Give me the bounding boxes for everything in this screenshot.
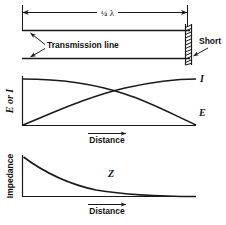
current-curve-label: I bbox=[199, 73, 205, 84]
short-leader-arrow bbox=[194, 48, 209, 56]
middle-y-axis-label: E or I bbox=[4, 88, 15, 115]
bottom-x-axis-label: Distance bbox=[89, 206, 125, 216]
transmission-line-leader-upper bbox=[31, 33, 46, 45]
voltage-curve-label: E bbox=[198, 107, 206, 118]
bottom-panel-chart: Z Impedance Distance bbox=[5, 154, 196, 216]
bottom-y-axis-label: Impedance bbox=[5, 154, 15, 199]
middle-x-axis-label: Distance bbox=[89, 135, 125, 145]
current-curve bbox=[23, 79, 196, 125]
impedance-curve-label: Z bbox=[107, 168, 114, 179]
transmission-line-label: Transmission line bbox=[47, 40, 119, 50]
figure-container: ¼ λ bbox=[0, 0, 226, 225]
top-panel-schematic: ¼ λ bbox=[22, 5, 221, 65]
middle-panel-chart: I E E or I Distance bbox=[4, 73, 206, 145]
dimension-label: ¼ λ bbox=[101, 8, 115, 18]
transmission-line-leader-lower bbox=[31, 49, 46, 58]
voltage-curve bbox=[23, 79, 196, 125]
short-label: Short bbox=[199, 36, 221, 46]
